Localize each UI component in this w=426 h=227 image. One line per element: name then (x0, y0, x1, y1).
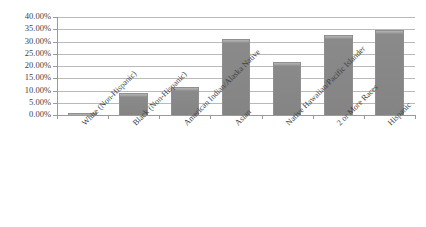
y-axis-tick-label: 35.00% (3, 24, 51, 33)
bar-chart: 40.00%35.00%30.00%25.00%20.00%15.00%10.0… (0, 0, 426, 227)
y-axis-tick-label: 40.00% (3, 12, 51, 21)
y-axis-tick: 0.00% (0, 110, 51, 119)
x-axis-tick-mark (57, 115, 58, 119)
y-axis-tick: 20.00% (0, 61, 51, 70)
x-axis-tick-mark (364, 115, 365, 119)
y-axis-tick-label: 25.00% (3, 49, 51, 58)
x-axis-tick-mark (108, 115, 109, 119)
y-axis-tick-label: 30.00% (3, 37, 51, 46)
y-axis-tick: 5.00% (0, 98, 51, 107)
x-axis-tick-mark (415, 115, 416, 119)
x-axis-tick-mark (313, 115, 314, 119)
bar[interactable] (375, 30, 404, 115)
x-axis-tick-mark (262, 115, 263, 119)
y-axis-tick: 10.00% (0, 86, 51, 95)
y-axis-tick-label: 5.00% (3, 98, 51, 107)
y-axis-tick-label: 15.00% (3, 73, 51, 82)
y-axis-tick-label: 10.00% (3, 86, 51, 95)
y-axis-tick: 25.00% (0, 49, 51, 58)
gridline (57, 115, 415, 116)
y-axis-tick-label: 20.00% (3, 61, 51, 70)
y-axis-tick: 35.00% (0, 24, 51, 33)
x-axis-tick-mark (159, 115, 160, 119)
y-axis-tick-label: 0.00% (3, 110, 51, 119)
y-axis-tick: 30.00% (0, 37, 51, 46)
y-axis-tick: 40.00% (0, 12, 51, 21)
y-axis-tick: 15.00% (0, 73, 51, 82)
x-axis-tick-mark (210, 115, 211, 119)
